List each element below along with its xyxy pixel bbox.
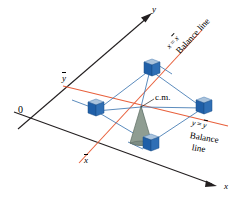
y-axis-label: y [152,5,156,14]
figure-canvas: 0 y x y x c.m. x=x Balance line y=y Bala… [0,0,244,206]
mass-cube-left [88,99,104,116]
center-of-mass-label: c.m. [155,93,171,102]
x-axis-arrowhead [205,181,217,188]
frame-strut-right [141,107,203,108]
mass-cube-right [196,97,212,114]
origin-label: 0 [18,105,23,115]
mass-cube-top [144,59,160,76]
mass-cube-bottom [143,134,159,151]
y-bar-tick-label: y [62,74,66,83]
diagram-svg [0,0,244,206]
x-bar-glyph: x [84,155,88,165]
x-axis-label: x [224,182,228,191]
frame-edge-right-top [150,70,203,108]
x-bar-overline [84,154,88,155]
y-axis-line [18,17,148,129]
y-bar-overline [62,72,66,73]
frame-tail-left [72,100,88,106]
y-bar-glyph: y [62,73,66,83]
x-bar-tick-label: x [84,156,88,165]
x-axis-line [14,112,212,184]
